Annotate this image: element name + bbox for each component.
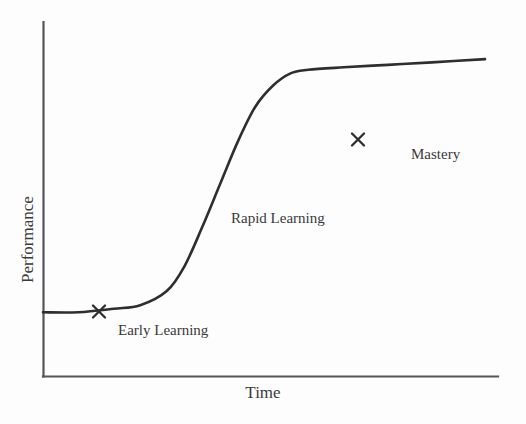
y-axis-label: Performance bbox=[18, 227, 38, 283]
mastery-marker-icon bbox=[352, 134, 364, 146]
annotation-mastery: Mastery bbox=[411, 146, 460, 163]
x-axis-label: Time bbox=[0, 383, 526, 403]
annotation-rapid-learning: Rapid Learning bbox=[231, 210, 325, 227]
learning-curve-path bbox=[43, 59, 485, 312]
annotation-early-learning: Early Learning bbox=[118, 322, 208, 339]
learning-curve-figure: Performance Time Early Learning Rapid Le… bbox=[0, 0, 526, 424]
